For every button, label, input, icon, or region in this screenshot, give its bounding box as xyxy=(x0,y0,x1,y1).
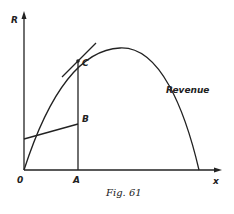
y-axis-arrow-icon xyxy=(22,11,27,19)
origin-label: 0 xyxy=(17,175,23,185)
y-axis-label: R xyxy=(11,15,18,25)
curve-label: Revenue xyxy=(166,85,209,95)
line-to-b xyxy=(24,124,78,139)
revenue-curve xyxy=(24,48,199,170)
x-axis-label: x xyxy=(212,176,220,186)
x-axis-arrow-icon xyxy=(214,168,222,173)
point-c-label: C xyxy=(82,58,89,68)
figure-caption: Fig. 61 xyxy=(105,187,142,198)
point-c xyxy=(76,59,80,63)
point-b-label: B xyxy=(82,114,89,124)
point-a-label: A xyxy=(72,175,80,185)
revenue-diagram: R x 0 A B C Revenue Fig. 61 xyxy=(0,0,234,214)
